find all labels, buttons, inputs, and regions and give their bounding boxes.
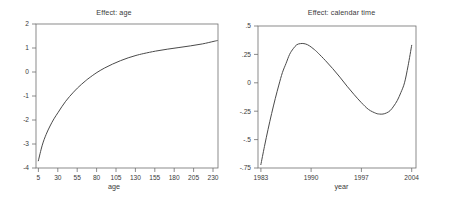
- panel-age-ytick-3: -1: [23, 92, 29, 99]
- panel-age-curve: [38, 41, 217, 161]
- panel-age-xlabel: age: [0, 182, 228, 191]
- panel-age-ytick-4: -2: [23, 116, 29, 123]
- panel-time-ytick-2: 0: [247, 79, 251, 86]
- panel-time-xlabel: year: [228, 182, 455, 191]
- panel-age-ytick-0: 2: [25, 20, 29, 27]
- panel-time-xtick-3: 2004: [404, 174, 419, 181]
- panel-age-ytick-5: -3: [23, 140, 29, 147]
- panel-time-xtick-0: 1983: [254, 174, 269, 181]
- panel-age-plot: 2 1 0 -1 -2 -3 -4 5 30: [0, 0, 228, 203]
- panel-time-ytick-1: .25: [242, 51, 251, 58]
- chart-panel-calendar-time: Effect: calendar time .5 .25 0 -.25 -.5 …: [228, 0, 455, 203]
- panel-time-y-ticks: .5 .25 0 -.25 -.5 -.75: [240, 22, 258, 171]
- panel-age-xtick-5: 130: [130, 174, 141, 181]
- figure-root: Effect: age 2 1 0 -1 -2 -3 -4: [0, 0, 455, 203]
- panel-time-ytick-4: -.5: [243, 136, 251, 143]
- panel-age-xtick-6: 155: [149, 174, 160, 181]
- panel-time-plot: .5 .25 0 -.25 -.5 -.75 1983 1990 1997 20…: [228, 0, 455, 203]
- panel-age-xtick-1: 30: [54, 174, 62, 181]
- panel-time-ytick-0: .5: [246, 22, 252, 29]
- panel-age-xtick-9: 230: [207, 174, 218, 181]
- panel-age-x-ticks: 5 30 55 80 105 130 155 180 205 230: [37, 168, 219, 181]
- panel-time-xtick-1: 1990: [304, 174, 319, 181]
- panel-age-xtick-2: 55: [74, 174, 82, 181]
- panel-time-ytick-3: -.25: [240, 108, 252, 115]
- panel-time-frame: [258, 26, 416, 168]
- panel-age-ytick-2: 0: [25, 68, 29, 75]
- panel-time-x-ticks: 1983 1990 1997 2004: [254, 168, 420, 181]
- panel-age-xtick-7: 180: [169, 174, 180, 181]
- panel-time-xtick-2: 1997: [354, 174, 369, 181]
- panel-age-y-ticks: 2 1 0 -1 -2 -3 -4: [23, 20, 36, 171]
- panel-age-ytick-6: -4: [23, 164, 29, 171]
- panel-age-xtick-8: 205: [188, 174, 199, 181]
- panel-age-xtick-0: 5: [37, 174, 41, 181]
- chart-panel-age: Effect: age 2 1 0 -1 -2 -3 -4: [0, 0, 228, 203]
- panel-age-xtick-3: 80: [93, 174, 101, 181]
- panel-age-xtick-4: 105: [110, 174, 121, 181]
- panel-time-ytick-5: -.75: [240, 164, 252, 171]
- panel-age-ytick-1: 1: [25, 44, 29, 51]
- panel-time-curve: [261, 43, 412, 164]
